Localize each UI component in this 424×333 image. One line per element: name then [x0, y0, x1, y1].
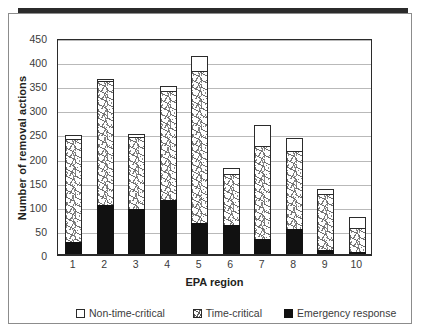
bar-segment-nontime: [254, 125, 271, 146]
bar-segment-emergency: [128, 209, 145, 255]
bar-segment-emergency: [254, 239, 271, 255]
x-axis-tick-label: 2: [101, 258, 107, 270]
bar-segment-emergency: [191, 223, 208, 255]
bar-region-3: [128, 134, 145, 255]
legend-label-non-time-critical: Non-time-critical: [89, 307, 165, 319]
y-axis-tick-label: 150: [13, 178, 47, 190]
chart-legend: Non-time-critical Time-critical Emergenc…: [20, 305, 404, 321]
x-axis-tick-label: 1: [70, 258, 76, 270]
y-axis-tick-label: 400: [13, 57, 47, 69]
black-square-swatch-icon: [284, 309, 293, 318]
bar-region-9: [317, 189, 334, 255]
y-axis-tick-label: 350: [13, 81, 47, 93]
y-axis-tick-label: 300: [13, 105, 47, 117]
y-axis-tick-label: 450: [13, 33, 47, 45]
plot-wrapper: 050100150200250300350400450: [57, 39, 372, 256]
legend-label-emergency-response: Emergency response: [297, 307, 396, 319]
bar-region-4: [160, 86, 177, 255]
y-axis-tick-label: 50: [13, 226, 47, 238]
x-axis-tick-label: 3: [133, 258, 139, 270]
x-axis-line: [58, 254, 371, 255]
x-axis-tick-label: 9: [322, 258, 328, 270]
bar-segment-nontime: [349, 217, 366, 227]
bar-region-6: [223, 168, 240, 255]
bar-segment-emergency: [286, 229, 303, 255]
legend-item-time-critical: Time-critical: [193, 307, 262, 319]
x-axis-tick-label: 10: [350, 258, 362, 270]
bar-segment-timecrit: [160, 91, 177, 200]
bar-segment-timecrit: [286, 151, 303, 229]
x-axis-tick-label: 7: [259, 258, 265, 270]
x-axis-tick-labels: 12345678910: [57, 258, 372, 274]
bar-segment-timecrit: [97, 81, 114, 205]
y-axis-tick-label: 0: [13, 250, 47, 262]
y-axis-title-text: Number of removal actions: [16, 75, 28, 219]
bar-segment-emergency: [160, 200, 177, 255]
bar-segment-timecrit: [223, 174, 240, 225]
bar-segment-emergency: [65, 242, 82, 256]
bar-segment-nontime: [191, 56, 208, 71]
bar-segment-emergency: [223, 225, 240, 255]
bar-region-7: [254, 125, 271, 255]
bar-segment-nontime: [286, 138, 303, 151]
plot-area: [57, 39, 372, 256]
legend-item-non-time-critical: Non-time-critical: [76, 307, 165, 319]
bar-segment-timecrit: [191, 71, 208, 223]
bar-region-10: [349, 217, 366, 255]
bar-region-2: [97, 79, 114, 255]
bar-series-group: [58, 40, 371, 255]
bar-segment-timecrit: [317, 194, 334, 250]
hatched-square-swatch-icon: [193, 309, 202, 318]
bar-segment-emergency: [97, 205, 114, 255]
bar-region-8: [286, 138, 303, 255]
bar-segment-nontime: [223, 168, 240, 175]
legend-item-emergency-response: Emergency response: [284, 307, 396, 319]
y-axis-tick-label: 200: [13, 154, 47, 166]
x-axis-tick-label: 6: [227, 258, 233, 270]
white-square-swatch-icon: [76, 309, 85, 318]
bar-segment-timecrit: [128, 137, 145, 209]
bar-segment-timecrit: [65, 139, 82, 241]
y-axis-title: Number of removal actions: [14, 39, 30, 256]
chart-figure: Number of removal actions 05010015020025…: [0, 0, 424, 333]
x-axis-title: EPA region: [57, 276, 372, 288]
x-axis-tick-label: 4: [164, 258, 170, 270]
bar-segment-timecrit: [254, 146, 271, 239]
bar-region-5: [191, 56, 208, 255]
y-axis-tick-label: 100: [13, 202, 47, 214]
bar-segment-timecrit: [349, 228, 366, 253]
x-axis-tick-label: 8: [290, 258, 296, 270]
legend-label-time-critical: Time-critical: [206, 307, 262, 319]
bar-region-1: [65, 135, 82, 255]
y-axis-tick-label: 250: [13, 129, 47, 141]
x-axis-tick-label: 5: [196, 258, 202, 270]
